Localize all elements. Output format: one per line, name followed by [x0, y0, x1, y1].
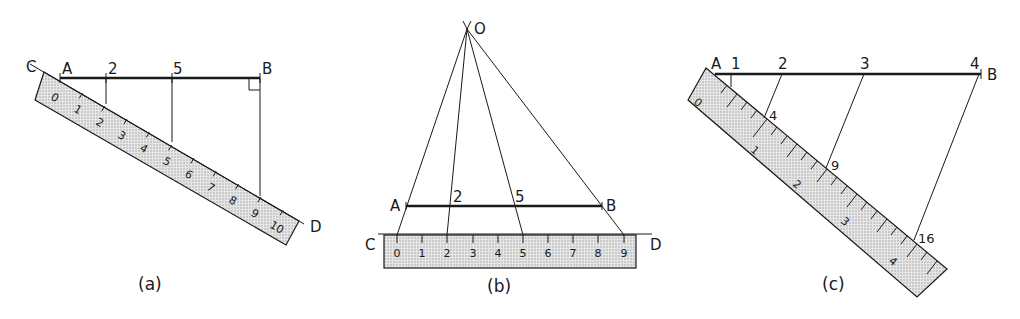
svg-text:0: 0: [394, 247, 401, 260]
division-5-a: 5: [173, 60, 183, 78]
panel-a: 0 1 2 3 4 5 6 7 8 9 10 C A 2 5 B D (a): [26, 58, 322, 294]
division-2-b: 2: [453, 188, 463, 206]
panel-c: 0 1 2 3 4 A 1 2 3 4 B 4 9 16 (c): [688, 55, 997, 297]
svg-text:8: 8: [595, 247, 602, 260]
caption-c: (c): [822, 274, 845, 294]
svg-text:6: 6: [545, 247, 552, 260]
point-o-b: O: [474, 20, 486, 38]
division-4-c: 4: [970, 55, 980, 73]
division-1-c: 1: [731, 55, 741, 73]
division-3-c: 3: [860, 55, 870, 73]
point-d-b: D: [650, 236, 662, 254]
line-cd-a: [30, 64, 304, 224]
scale-mark-4-c: 4: [769, 108, 777, 123]
point-a-c: A: [711, 55, 722, 73]
point-b-a: B: [262, 60, 272, 78]
svg-text:2: 2: [444, 247, 451, 260]
scale-mark-9-c: 9: [831, 158, 839, 173]
ruler-c: [688, 68, 947, 297]
svg-text:3: 3: [470, 247, 477, 260]
division-2-a: 2: [108, 60, 118, 78]
vertex-o-icon: [463, 21, 471, 29]
point-b-c: B: [987, 66, 997, 84]
svg-text:7: 7: [570, 247, 577, 260]
point-a-b: A: [390, 197, 401, 215]
caption-b: (b): [487, 276, 511, 296]
rays-from-o: [397, 29, 624, 235]
svg-text:4: 4: [495, 247, 502, 260]
svg-text:1: 1: [419, 247, 426, 260]
scale-mark-16-c: 16: [918, 231, 935, 246]
right-angle-icon: [249, 78, 260, 90]
division-2-c: 2: [778, 55, 788, 73]
point-c-b: C: [365, 236, 375, 254]
geometric-construction-diagram: 0 1 2 3 4 5 6 7 8 9 10 C A 2 5 B D (a): [0, 0, 1020, 319]
caption-a: (a): [138, 274, 162, 294]
svg-text:5: 5: [520, 247, 527, 260]
point-d-a: D: [310, 218, 322, 236]
point-b-b: B: [606, 197, 616, 215]
division-5-b: 5: [515, 188, 525, 206]
panel-b: 0 1 2 3 4 5 6 7 8 9 O A 2 5 B C D (b): [365, 20, 662, 296]
point-a-a: A: [62, 60, 73, 78]
point-c-a: C: [26, 58, 36, 76]
svg-text:9: 9: [621, 247, 628, 260]
